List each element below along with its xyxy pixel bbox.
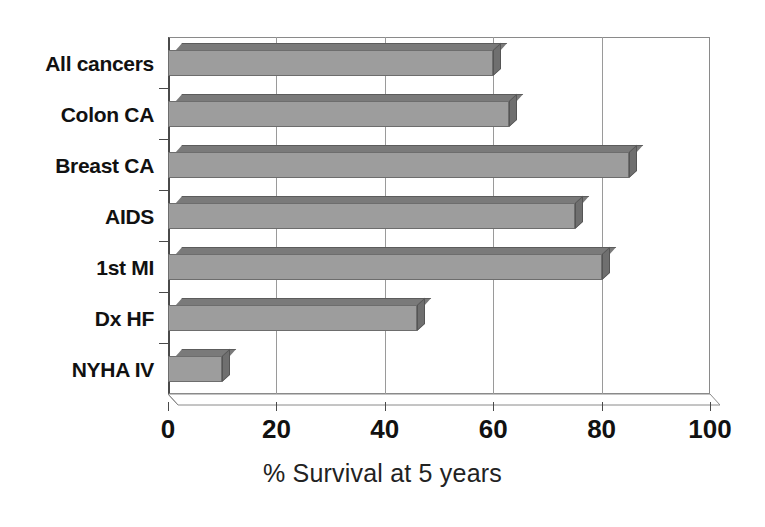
bar-front-face xyxy=(168,101,509,127)
category-label-dx-hf: Dx HF xyxy=(0,307,154,331)
bar-front-face xyxy=(168,203,575,229)
x-axis-tick-40 xyxy=(385,402,386,411)
bar-chart: All cancers Colon CA Breast CA AIDS 1st … xyxy=(0,0,765,527)
category-label-nyha-iv: NYHA IV xyxy=(0,358,154,382)
y-axis-tick xyxy=(159,88,168,89)
x-axis-tick-100 xyxy=(710,402,711,411)
bar-side-face xyxy=(493,43,501,76)
bar-front-face xyxy=(168,305,417,331)
bar-aids xyxy=(168,196,583,230)
y-axis-tick xyxy=(159,343,168,344)
bar-front-face xyxy=(168,356,222,382)
bar-side-face xyxy=(629,145,637,178)
bar-side-face xyxy=(417,298,425,331)
bar-nyha-iv xyxy=(168,349,230,383)
y-axis-tick xyxy=(159,139,168,140)
bar-front-face xyxy=(168,152,629,178)
bar-1st-mi xyxy=(168,247,610,281)
bar-dx-hf xyxy=(168,298,425,332)
bar-breast-ca xyxy=(168,145,637,179)
bar-colon-ca xyxy=(168,94,517,128)
bar-all-cancers xyxy=(168,43,501,77)
bar-side-face xyxy=(222,349,230,382)
gridline-80 xyxy=(602,37,603,394)
bar-side-face xyxy=(575,196,583,229)
x-axis-tick-60 xyxy=(493,402,494,411)
x-axis-tick-80 xyxy=(602,402,603,411)
x-axis-label-40: 40 xyxy=(355,414,415,445)
x-axis-label-0: 0 xyxy=(138,414,198,445)
y-axis-tick xyxy=(159,190,168,191)
category-label-1st-mi: 1st MI xyxy=(0,256,154,280)
category-label-colon-ca: Colon CA xyxy=(0,103,154,127)
category-label-breast-ca: Breast CA xyxy=(0,154,154,178)
y-axis-tick xyxy=(159,241,168,242)
x-axis-label-20: 20 xyxy=(246,414,306,445)
bar-side-face xyxy=(509,94,517,127)
category-label-aids: AIDS xyxy=(0,205,154,229)
y-axis-tick xyxy=(159,292,168,293)
x-axis-tick-20 xyxy=(276,402,277,411)
x-axis-tick-0 xyxy=(168,402,169,411)
bar-side-face xyxy=(602,247,610,280)
x-axis-label-80: 80 xyxy=(572,414,632,445)
x-axis-label-100: 100 xyxy=(680,414,740,445)
bar-front-face xyxy=(168,50,493,76)
x-axis-title: % Survival at 5 years xyxy=(0,459,765,488)
bar-front-face xyxy=(168,254,602,280)
category-label-all-cancers: All cancers xyxy=(0,52,154,76)
x-axis-label-60: 60 xyxy=(463,414,523,445)
chart-floor-plate xyxy=(168,394,720,408)
